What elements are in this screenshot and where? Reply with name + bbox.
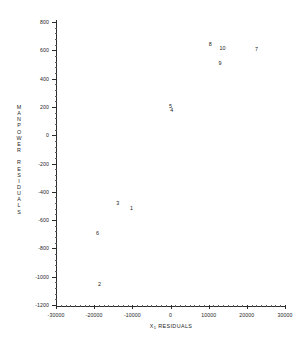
x-tick-major (209, 305, 210, 309)
data-point-label: 6 (96, 230, 99, 236)
y-tick-label: -1200 (35, 302, 49, 308)
data-point-label: 7 (255, 46, 258, 52)
y-tick-label: -200 (38, 161, 49, 167)
x-tick-minor (166, 305, 167, 307)
y-tick-label: -800 (38, 245, 49, 251)
x-tick-minor (137, 305, 138, 307)
x-tick-major (132, 305, 133, 309)
x-tick-label: -20000 (86, 312, 103, 318)
x-tick-minor (156, 305, 157, 307)
x-tick-label: 10000 (201, 312, 216, 318)
x-axis-ticks: -30000-20000-100000100002000030000 (56, 22, 285, 305)
x-tick-minor (147, 305, 148, 307)
y-tick-label: -400 (38, 189, 49, 195)
x-tick-minor (194, 305, 195, 307)
x-axis-title-rest: RESIDUALS (156, 323, 192, 329)
x-tick-major (247, 305, 248, 309)
x-tick-minor (185, 305, 186, 307)
x-tick-minor (175, 305, 176, 307)
x-tick-minor (70, 305, 71, 307)
x-tick-minor (199, 305, 200, 307)
x-tick-label: 0 (169, 312, 172, 318)
y-tick-label: 0 (46, 132, 49, 138)
scatter-plot-figure: MANPOWERRESIDUALS X1 RESIDUALS 800600400… (0, 0, 297, 344)
x-tick-minor (280, 305, 281, 307)
x-tick-minor (99, 305, 100, 307)
x-tick-minor (89, 305, 90, 307)
x-tick-major (285, 305, 286, 309)
x-tick-minor (151, 305, 152, 307)
data-point-label: 1 (130, 205, 133, 211)
y-tick-label: -1000 (35, 274, 49, 280)
x-tick-minor (75, 305, 76, 307)
x-axis-title-subscript: 1 (154, 325, 157, 330)
x-tick-minor (271, 305, 272, 307)
plot-area: 8006004002000-200-400-600-800-1000-1200 … (56, 22, 285, 305)
x-tick-major (171, 305, 172, 309)
x-tick-minor (242, 305, 243, 307)
data-point-label: 9 (219, 60, 222, 66)
x-tick-minor (223, 305, 224, 307)
x-tick-minor (213, 305, 214, 307)
x-tick-minor (128, 305, 129, 307)
data-point-label: 3 (116, 200, 119, 206)
x-tick-minor (218, 305, 219, 307)
y-tick-label: 200 (40, 104, 49, 110)
x-tick-minor (275, 305, 276, 307)
data-point-label: 10 (219, 45, 225, 51)
x-tick-label: 30000 (278, 312, 293, 318)
y-tick-label: -600 (38, 217, 49, 223)
x-tick-minor (108, 305, 109, 307)
data-point-label: 5 (169, 103, 172, 109)
y-axis-ticks: 8006004002000-200-400-600-800-1000-1200 (0, 22, 57, 305)
x-tick-minor (228, 305, 229, 307)
x-tick-minor (180, 305, 181, 307)
y-tick-label: 600 (40, 47, 49, 53)
x-tick-minor (204, 305, 205, 307)
x-tick-minor (237, 305, 238, 307)
x-axis-title: X1 RESIDUALS (56, 323, 286, 329)
x-tick-minor (261, 305, 262, 307)
data-point-label: 2 (98, 281, 101, 287)
x-tick-minor (256, 305, 257, 307)
y-tick-label: 400 (40, 76, 49, 82)
x-tick-label: 20000 (239, 312, 254, 318)
data-point-label: 8 (209, 41, 212, 47)
x-tick-minor (61, 305, 62, 307)
x-tick-minor (80, 305, 81, 307)
x-tick-minor (104, 305, 105, 307)
x-tick-minor (161, 305, 162, 307)
x-tick-major (56, 305, 57, 309)
x-tick-major (94, 305, 95, 309)
x-tick-minor (118, 305, 119, 307)
x-tick-minor (190, 305, 191, 307)
x-tick-minor (266, 305, 267, 307)
y-tick-label: 800 (40, 19, 49, 25)
x-tick-label: -30000 (48, 312, 65, 318)
x-tick-minor (85, 305, 86, 307)
x-tick-minor (142, 305, 143, 307)
x-tick-minor (66, 305, 67, 307)
x-tick-minor (233, 305, 234, 307)
x-tick-minor (123, 305, 124, 307)
x-tick-minor (113, 305, 114, 307)
x-tick-minor (252, 305, 253, 307)
x-tick-label: -10000 (124, 312, 141, 318)
